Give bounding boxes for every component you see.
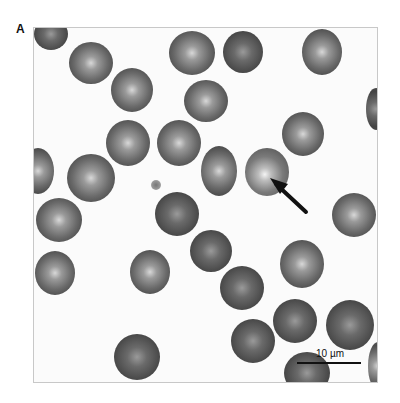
micrograph-frame: 10 µm xyxy=(33,27,378,383)
arrow-pointer-icon xyxy=(34,28,377,382)
scale-bar xyxy=(297,362,361,364)
scale-bar-label: 10 µm xyxy=(316,348,344,359)
panel-label: A xyxy=(16,22,25,36)
